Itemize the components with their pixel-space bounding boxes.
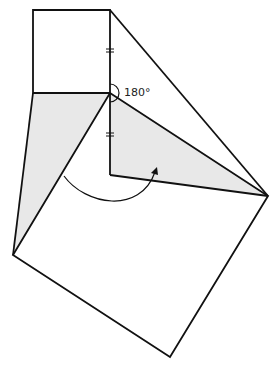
angle-label: 180° (124, 86, 151, 99)
top-square (33, 10, 110, 93)
geometry-diagram: 180° (0, 0, 278, 366)
